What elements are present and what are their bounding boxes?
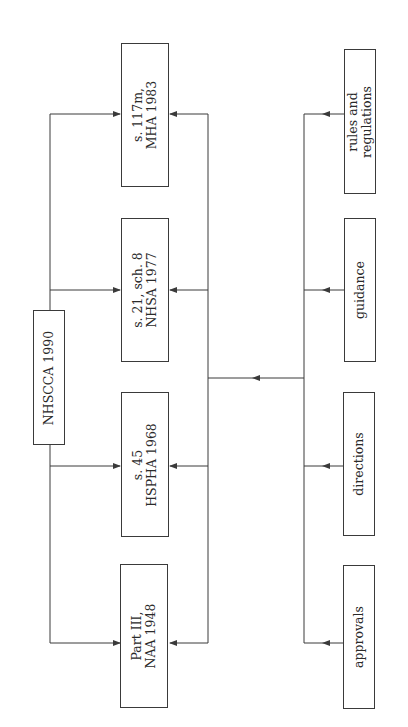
statute-label: s. 21, sch. 8 NHSA 1977 — [131, 252, 159, 328]
label-line-1: approvals — [352, 606, 366, 668]
label-line-1: s. 117m, — [131, 81, 145, 150]
instrument-label: rules and regulations — [346, 86, 374, 158]
statute-label: Part III, NAA 1948 — [130, 604, 158, 669]
label-line-2: regulations — [360, 86, 374, 158]
instrument-node-directions: directions — [343, 392, 375, 536]
statute-label: s. 45 HSPHA 1968 — [131, 423, 159, 507]
statute-label: s. 117m, MHA 1983 — [131, 81, 159, 150]
root-label-text: NHSCCA 1990 — [42, 330, 56, 424]
label-line-1: s. 45 — [131, 423, 145, 507]
label-line-1: directions — [352, 432, 366, 495]
instrument-label: approvals — [352, 606, 366, 668]
root-node-nhscca: NHSCCA 1990 — [33, 310, 65, 445]
label-line-2: HSPHA 1968 — [145, 423, 159, 507]
instrument-node-rules: rules and regulations — [344, 49, 376, 194]
bus-link-arrowhead — [252, 375, 260, 381]
label-line-2: MHA 1983 — [145, 81, 159, 150]
arrowhead-directions — [322, 463, 330, 469]
arrowhead-approvals — [322, 640, 330, 646]
instrument-label: guidance — [353, 261, 367, 319]
label-line-1: guidance — [353, 261, 367, 319]
label-line-2: NHSA 1977 — [145, 252, 159, 328]
instrument-label: directions — [352, 432, 366, 495]
label-line-1: Part III, — [130, 604, 144, 669]
statute-node-naa: Part III, NAA 1948 — [120, 564, 168, 708]
label-line-1: s. 21, sch. 8 — [131, 252, 145, 328]
instrument-node-approvals: approvals — [343, 565, 375, 709]
instrument-node-guidance: guidance — [344, 218, 376, 362]
statute-node-mha: s. 117m, MHA 1983 — [121, 43, 169, 187]
statute-node-nhsa: s. 21, sch. 8 NHSA 1977 — [121, 218, 169, 362]
statute-node-hspha: s. 45 HSPHA 1968 — [121, 392, 169, 537]
root-node-label: NHSCCA 1990 — [42, 330, 56, 424]
arrowhead-rules — [322, 111, 330, 117]
label-line-1: rules and — [346, 86, 360, 158]
arrowhead-guidance — [322, 287, 330, 293]
label-line-2: NAA 1948 — [144, 604, 158, 669]
